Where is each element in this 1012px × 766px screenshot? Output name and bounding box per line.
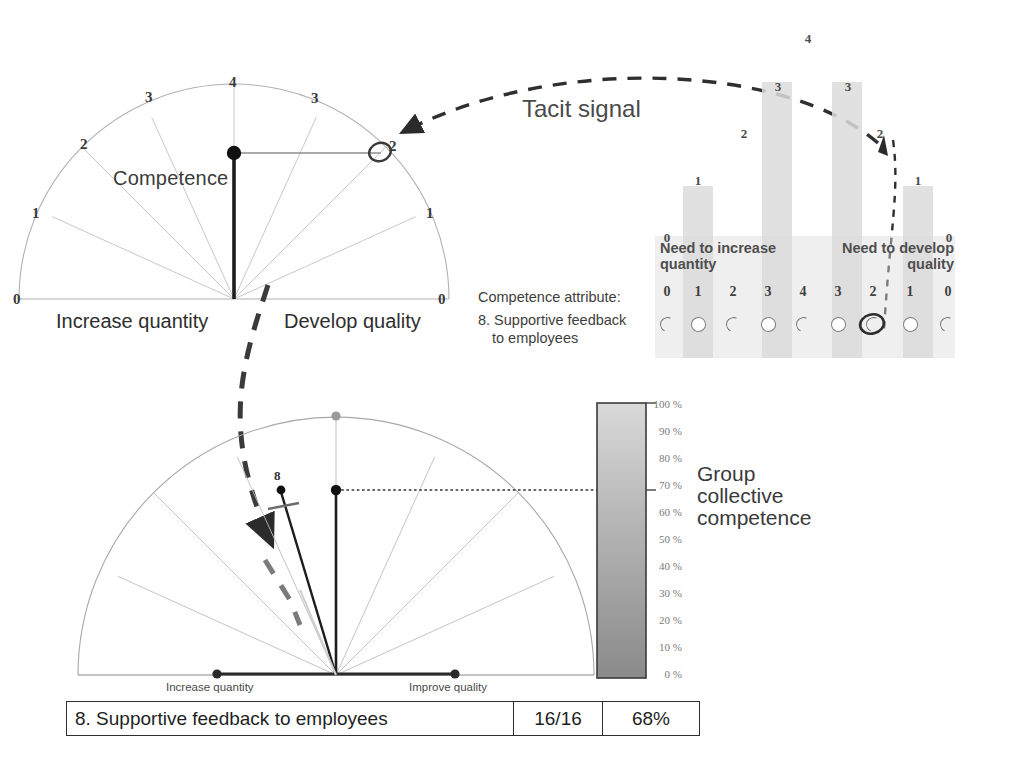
bottom-gauge-needle-label: 8 <box>274 468 281 484</box>
result-row-percent: 68% <box>602 702 699 735</box>
group-competence-caption-2: collective <box>697 484 783 508</box>
result-row-name: 8. Supportive feedback to employees <box>67 702 513 735</box>
pct-tick-40: 40 % <box>648 560 682 572</box>
group-competence-caption-1: Group <box>697 462 755 486</box>
pct-tick-30: 30 % <box>648 587 682 599</box>
group-competence-caption-3: competence <box>697 506 811 530</box>
result-row-count: 16/16 <box>513 702 602 735</box>
bottom-gauge-left-axis-label: Increase quantity <box>166 681 254 693</box>
pct-tick-70: 70 % <box>648 479 682 491</box>
pct-tick-10: 10 % <box>648 641 682 653</box>
selected-option-ring <box>0 0 1012 766</box>
result-table: 8. Supportive feedback to employees 16/1… <box>66 701 700 736</box>
pct-tick-100: 100 % <box>648 398 682 410</box>
pct-tick-0: 0 % <box>648 668 682 680</box>
competence-attribute-line2: to employees <box>492 329 578 347</box>
pct-tick-50: 50 % <box>648 533 682 545</box>
bottom-gauge-right-axis-label: Improve quality <box>409 681 487 693</box>
pct-tick-80: 80 % <box>648 452 682 464</box>
pct-tick-90: 90 % <box>648 425 682 437</box>
slide-canvas: 0 1 2 3 4 3 2 1 0 Competence Increase qu… <box>0 0 1012 766</box>
pct-tick-20: 20 % <box>648 614 682 626</box>
competence-attribute-prefix: Competence attribute: <box>478 288 621 306</box>
pct-tick-60: 60 % <box>648 506 682 518</box>
competence-attribute-line1: 8. Supportive feedback <box>478 311 626 329</box>
